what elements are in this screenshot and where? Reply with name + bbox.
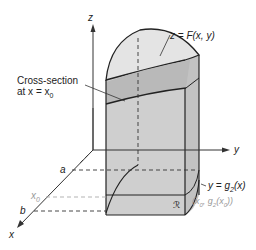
tick-b: b bbox=[20, 205, 26, 216]
tick-x0: x0 bbox=[31, 190, 40, 205]
point-label: (x0, g2(x0)) bbox=[192, 196, 233, 211]
y-axis-label: y bbox=[234, 144, 239, 155]
cross-section-label: Cross-section at x = x0 bbox=[17, 75, 78, 101]
z-axis-label: z bbox=[88, 12, 93, 23]
tick-a: a bbox=[60, 164, 66, 175]
surface-label: z = F(x, y) bbox=[170, 30, 215, 41]
solid-diagram bbox=[0, 0, 256, 250]
boundary-curve-label: y = g2(x) bbox=[208, 180, 246, 195]
region-label: ℛ bbox=[173, 200, 180, 211]
x-axis-label: x bbox=[9, 229, 14, 240]
